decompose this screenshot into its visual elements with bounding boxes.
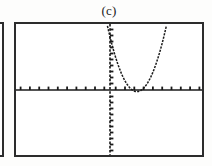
adjacent-figure-partial-frame: [0, 22, 4, 157]
parabola-curve: [107, 26, 166, 92]
parabola-plot: [16, 24, 202, 155]
figure-panel: (c): [0, 0, 212, 166]
graphing-calculator-viewport[interactable]: [14, 22, 204, 157]
figure-caption-label: (c): [14, 2, 204, 20]
